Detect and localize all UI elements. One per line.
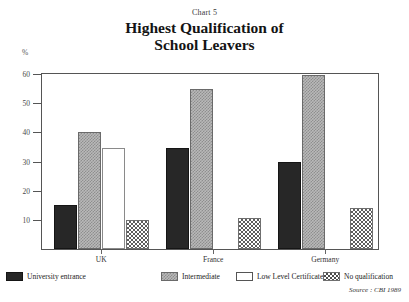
legend-item-low-level-certificate[interactable]: Low Level Certificate bbox=[236, 272, 323, 281]
title-line-1: Highest Qualification of bbox=[0, 19, 409, 36]
legend-swatch-icon bbox=[6, 272, 23, 281]
y-tick-mark bbox=[33, 103, 42, 104]
bar-group-uk: UK bbox=[42, 74, 154, 249]
bar-uk-university-entrance bbox=[54, 205, 77, 249]
x-tick-mark bbox=[325, 249, 326, 254]
y-tick-label: 30 bbox=[23, 157, 31, 166]
legend-label: No qualification bbox=[344, 272, 393, 281]
legend-swatch-icon bbox=[161, 272, 178, 281]
bar-group-germany: Germany bbox=[266, 74, 378, 249]
x-tick-mark bbox=[101, 249, 102, 254]
bar-group-france: France bbox=[154, 74, 266, 249]
bar-germany-university-entrance bbox=[278, 162, 301, 250]
y-tick-label: 40 bbox=[23, 128, 31, 137]
y-tick-label: 50 bbox=[23, 99, 31, 108]
y-tick-mark bbox=[33, 191, 42, 192]
bar-france-no-qualification bbox=[238, 218, 261, 249]
x-tick-mark bbox=[213, 249, 214, 254]
legend-item-university-entrance[interactable]: University entrance bbox=[6, 272, 86, 281]
y-tick-mark bbox=[33, 74, 42, 75]
bar-germany-intermediate bbox=[302, 75, 325, 249]
bar-uk-low-level-certificate bbox=[102, 148, 125, 249]
y-axis-unit-label: % bbox=[22, 48, 28, 57]
x-tick-label-germany: Germany bbox=[311, 255, 339, 264]
x-tick-label-france: France bbox=[203, 255, 223, 264]
legend-label: University entrance bbox=[27, 272, 86, 281]
y-tick-label: 60 bbox=[23, 70, 31, 79]
plot-area: 102030405060 UKFranceGermany bbox=[41, 73, 379, 250]
bar-uk-no-qualification bbox=[126, 220, 149, 249]
legend-label: Low Level Certificate bbox=[257, 272, 323, 281]
y-tick-mark bbox=[33, 132, 42, 133]
bar-germany-no-qualification bbox=[350, 208, 373, 249]
legend-item-no-qualification[interactable]: No qualification bbox=[323, 272, 393, 281]
legend-item-intermediate[interactable]: Intermediate bbox=[161, 272, 220, 281]
bar-france-intermediate bbox=[190, 89, 213, 249]
x-tick-label-uk: UK bbox=[96, 255, 107, 264]
legend: University entranceIntermediateLow Level… bbox=[6, 272, 403, 284]
bar-france-university-entrance bbox=[166, 148, 189, 249]
legend-swatch-icon bbox=[323, 272, 340, 281]
y-tick-label: 10 bbox=[23, 215, 31, 224]
bar-uk-intermediate bbox=[78, 132, 101, 249]
source-note: Source : CBI 1989 bbox=[349, 286, 401, 294]
y-tick-mark bbox=[33, 162, 42, 163]
page-title: Highest Qualification of School Leavers bbox=[0, 19, 409, 53]
plot-inner: 102030405060 UKFranceGermany bbox=[42, 74, 378, 249]
chart-number-label: Chart 5 bbox=[0, 8, 409, 17]
legend-label: Intermediate bbox=[182, 272, 220, 281]
legend-swatch-icon bbox=[236, 272, 253, 281]
y-tick-mark bbox=[33, 220, 42, 221]
y-tick-label: 20 bbox=[23, 186, 31, 195]
title-line-2: School Leavers bbox=[0, 36, 409, 53]
